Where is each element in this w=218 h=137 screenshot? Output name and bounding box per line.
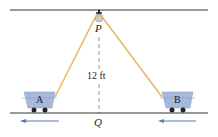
height-label: 12 ft bbox=[87, 70, 106, 81]
cart-b-label: B bbox=[174, 94, 181, 105]
arrow-left-icon bbox=[158, 119, 196, 123]
rope bbox=[55, 16, 162, 98]
ground-point-label: Q bbox=[94, 116, 102, 128]
pulley-label: P bbox=[95, 22, 102, 34]
cart-a-label: A bbox=[36, 94, 43, 105]
diagram: P 12 ft A B Q bbox=[0, 0, 218, 137]
arrow-left-icon bbox=[20, 119, 59, 123]
diagram-graphics bbox=[0, 0, 218, 137]
